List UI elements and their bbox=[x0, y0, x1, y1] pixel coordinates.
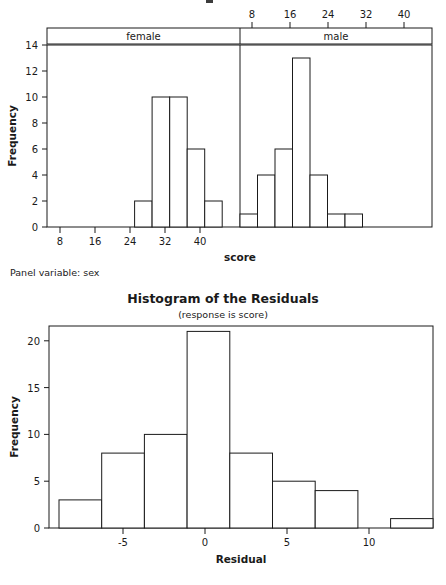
bar-residual-bin-9 bbox=[391, 519, 433, 528]
top-ytick-label-14: 14 bbox=[25, 40, 38, 51]
bottom-xtick-label-neg5: -5 bbox=[118, 537, 128, 548]
male-xtick-label-40: 40 bbox=[398, 9, 411, 20]
bar-female-40-44 bbox=[205, 201, 223, 227]
bar-residual-bin-6 bbox=[273, 481, 316, 528]
bar-female-24-28 bbox=[135, 201, 153, 227]
bar-residual-bin-1 bbox=[59, 500, 102, 528]
top-ytick-label-2: 2 bbox=[32, 196, 38, 207]
male-xtick-label-8: 8 bbox=[249, 9, 255, 20]
bottom-xtick-label-10: 10 bbox=[363, 537, 376, 548]
bar-residual-bin-3 bbox=[144, 434, 187, 528]
bar-male-8-12 bbox=[258, 175, 276, 227]
bottom-ytick-label-5: 5 bbox=[34, 476, 40, 487]
panel-variable-note: Panel variable: sex bbox=[10, 267, 100, 278]
bar-residual-bin-4 bbox=[187, 331, 230, 528]
top-ytick-label-8: 8 bbox=[32, 118, 38, 129]
male-xtick-label-32: 32 bbox=[360, 9, 373, 20]
bar-female-36-40 bbox=[187, 149, 205, 227]
male-bars-group bbox=[240, 58, 363, 227]
bottom-bars-group bbox=[59, 331, 433, 528]
female-xtick-label-32: 32 bbox=[159, 236, 172, 247]
top-ytick-label-4: 4 bbox=[32, 170, 38, 181]
top-chart-title-clipped bbox=[206, 0, 213, 3]
bar-male-12-16 bbox=[275, 149, 293, 227]
panel-label-female: female bbox=[126, 31, 160, 42]
female-xtick-label-40: 40 bbox=[194, 236, 207, 247]
male-top-axis: 8 16 24 32 40 bbox=[249, 9, 411, 28]
bottom-chart-subtitle: (response is score) bbox=[178, 309, 268, 320]
panel-header-strip: female male bbox=[47, 28, 432, 44]
bar-residual-bin-7 bbox=[315, 491, 358, 528]
bottom-residuals-histogram: Histogram of the Residuals (response is … bbox=[0, 285, 446, 585]
figure-page: 8 16 24 32 40 female male bbox=[0, 0, 446, 585]
top-ytick-label-10: 10 bbox=[25, 92, 38, 103]
female-bottom-axis: 8 16 24 32 40 bbox=[57, 227, 207, 247]
bottom-y-axis: 0 5 10 15 20 bbox=[27, 336, 49, 534]
top-y-axis-title: Frequency bbox=[6, 105, 18, 167]
bottom-x-axis-title: Residual bbox=[216, 553, 267, 565]
bottom-x-axis: -5 0 5 10 bbox=[118, 528, 375, 548]
female-bars-group bbox=[135, 97, 223, 227]
top-ytick-label-12: 12 bbox=[25, 66, 38, 77]
bottom-chart-title: Histogram of the Residuals bbox=[127, 291, 319, 306]
bottom-ytick-label-20: 20 bbox=[27, 336, 40, 347]
top-y-axis: 0 2 4 6 8 10 12 14 bbox=[25, 40, 47, 233]
female-xtick-label-24: 24 bbox=[124, 236, 137, 247]
bottom-ytick-label-15: 15 bbox=[27, 383, 40, 394]
bar-female-28-32 bbox=[152, 97, 170, 227]
male-xtick-label-24: 24 bbox=[322, 9, 335, 20]
male-xtick-label-16: 16 bbox=[284, 9, 297, 20]
bottom-xtick-label-0: 0 bbox=[202, 537, 208, 548]
bottom-ytick-label-10: 10 bbox=[27, 429, 40, 440]
bar-male-4-8 bbox=[240, 214, 258, 227]
bar-male-20-24 bbox=[310, 175, 328, 227]
bar-male-28-32 bbox=[345, 214, 363, 227]
top-histogram-panel-chart: 8 16 24 32 40 female male bbox=[0, 0, 446, 285]
bar-residual-bin-5 bbox=[230, 453, 273, 528]
female-xtick-label-8: 8 bbox=[57, 236, 63, 247]
top-plot-frame bbox=[47, 45, 432, 227]
bar-female-32-36 bbox=[170, 97, 188, 227]
bottom-xtick-label-5: 5 bbox=[284, 537, 290, 548]
bottom-y-axis-title: Frequency bbox=[8, 396, 20, 458]
top-ytick-label-0: 0 bbox=[32, 222, 38, 233]
bottom-ytick-label-0: 0 bbox=[34, 523, 40, 534]
bar-male-16-20 bbox=[293, 58, 311, 227]
panel-label-male: male bbox=[324, 31, 349, 42]
female-xtick-label-16: 16 bbox=[89, 236, 102, 247]
bar-residual-bin-2 bbox=[102, 453, 145, 528]
top-ytick-label-6: 6 bbox=[32, 144, 38, 155]
top-x-axis-title: score bbox=[224, 251, 256, 263]
bar-male-24-28 bbox=[328, 214, 346, 227]
